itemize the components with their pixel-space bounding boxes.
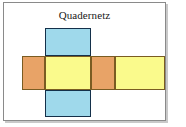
net-face-top-flap [45, 28, 91, 56]
net-faces-group [0, 0, 186, 127]
net-face-bottom-flap [45, 90, 91, 117]
quadernetz-figure: Quadernetz [0, 0, 186, 127]
net-face-back [115, 56, 165, 90]
net-face-front [45, 56, 91, 90]
net-face-left [22, 56, 45, 90]
net-face-right [91, 56, 115, 90]
